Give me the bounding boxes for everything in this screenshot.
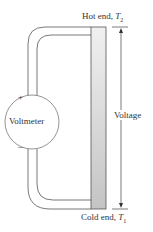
hot-end-label: Hot end, T2 bbox=[82, 11, 123, 23]
minus-sign: – bbox=[18, 141, 23, 151]
cold-end-label: Cold end, T1 bbox=[81, 212, 126, 224]
voltage-label: Voltage bbox=[114, 110, 141, 120]
conductor-bar bbox=[91, 27, 106, 209]
voltmeter-label: Voltmeter bbox=[9, 116, 44, 126]
plus-sign: + bbox=[18, 92, 23, 102]
